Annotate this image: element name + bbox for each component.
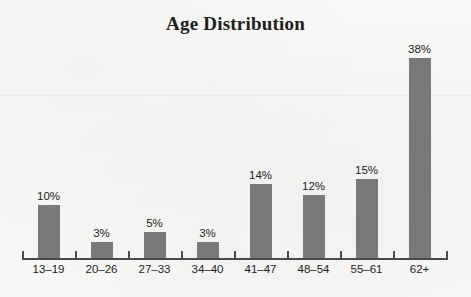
chart-title: Age Distribution [0,13,471,35]
bar-chart-plot-area: 10%3%5%3%14%12%15%38% [22,40,448,258]
bar-value-label: 38% [408,43,431,55]
bar-group[interactable]: 3% [75,40,128,258]
bar[interactable] [197,242,219,258]
bar-value-label: 3% [93,227,110,239]
x-axis-label: 13–19 [22,263,75,275]
x-axis-label: 62+ [393,263,446,275]
x-axis-label: 34–40 [181,263,234,275]
bar-group[interactable]: 15% [340,40,393,258]
bar[interactable] [38,205,60,258]
x-axis-tick [446,251,448,259]
x-axis-tick [181,251,183,259]
x-axis-tick [234,251,236,259]
x-axis-tick [287,251,289,259]
bar[interactable] [409,58,431,258]
bar-value-label: 3% [199,227,216,239]
bar[interactable] [356,179,378,258]
x-axis-label: 48–54 [287,263,340,275]
x-axis-label: 20–26 [75,263,128,275]
bar[interactable] [144,232,166,258]
bar[interactable] [303,195,325,258]
x-axis-tick [393,251,395,259]
bar-group[interactable]: 14% [234,40,287,258]
bar-group[interactable]: 3% [181,40,234,258]
x-axis-tick [22,251,24,259]
bar-value-label: 15% [355,164,378,176]
x-axis-tick [75,251,77,259]
x-axis-tick [128,251,130,259]
x-axis-label: 41–47 [234,263,287,275]
bar-group[interactable]: 38% [393,40,446,258]
x-axis-label: 55–61 [340,263,393,275]
bar-value-label: 5% [146,217,163,229]
bar-group[interactable]: 10% [22,40,75,258]
bar-group[interactable]: 12% [287,40,340,258]
bar-value-label: 14% [249,169,272,181]
x-axis-label: 27–33 [128,263,181,275]
bar-group[interactable]: 5% [128,40,181,258]
bar-value-label: 10% [37,190,60,202]
x-axis-tick [340,251,342,259]
bar-value-label: 12% [302,180,325,192]
bar[interactable] [250,184,272,258]
bar[interactable] [91,242,113,258]
